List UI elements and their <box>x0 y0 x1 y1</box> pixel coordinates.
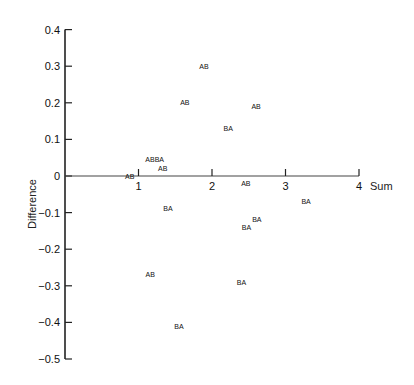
data-point-ab: AB <box>158 165 168 172</box>
y-tick-label: −0.1 <box>38 207 60 219</box>
data-point-ba: BA <box>174 323 184 330</box>
y-tick-label: −0.3 <box>38 280 60 292</box>
data-points: ABABABABABABABBABABABABABABAABBA <box>125 63 311 330</box>
data-point-ba: BA <box>252 216 262 223</box>
data-point-ba: BA <box>223 125 233 132</box>
y-tick-label: 0.3 <box>45 60 60 72</box>
data-point-ab: AB <box>180 99 190 106</box>
y-tick-label: 0.4 <box>45 24 60 36</box>
x-tick-label: 1 <box>135 180 141 192</box>
data-point-ba: BA <box>237 279 247 286</box>
axes: 0.40.30.20.10−0.1−0.2−0.3−0.4−0.51234 <box>38 24 362 365</box>
data-point-ba: BA <box>163 205 173 212</box>
data-point-ba: BA <box>301 198 311 205</box>
x-tick-label: 3 <box>282 180 288 192</box>
y-tick-label: −0.4 <box>38 316 60 328</box>
data-point-ba: BA <box>242 224 252 231</box>
x-tick-label: 4 <box>356 180 362 192</box>
data-point-ab: AB <box>146 271 156 278</box>
x-axis-label: Sum <box>370 180 393 192</box>
y-tick-label: 0 <box>54 170 60 182</box>
y-tick-label: 0.1 <box>45 133 60 145</box>
x-tick-label: 2 <box>209 180 215 192</box>
y-axis-label: Difference <box>26 179 38 229</box>
data-point-ab: AB <box>251 103 261 110</box>
data-point-ab: AB <box>125 173 135 180</box>
scatter-plot: 0.40.30.20.10−0.1−0.2−0.3−0.4−0.51234 AB… <box>0 0 414 385</box>
y-tick-label: −0.2 <box>38 243 60 255</box>
y-tick-label: −0.5 <box>38 353 60 365</box>
y-tick-label: 0.2 <box>45 97 60 109</box>
data-point-ab: AB <box>199 63 209 70</box>
data-point-ab: AB <box>241 180 251 187</box>
data-point-overlap: ABBA <box>145 156 164 163</box>
